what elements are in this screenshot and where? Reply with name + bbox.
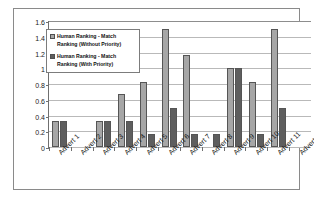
y-axis-tick-label: 1.6 xyxy=(35,19,45,26)
x-axis-label-cell: Advert 6 xyxy=(158,149,180,195)
x-axis-label-cell: Advert 9 xyxy=(223,149,245,195)
legend-entry: Human Ranking - Match Ranking (With Prio… xyxy=(50,53,136,68)
bar-group xyxy=(202,21,224,147)
chart-legend: Human Ranking - Match Ranking (Without P… xyxy=(46,29,140,73)
chart-x-axis-labels: Advert 1Advert 2Advert 3Advert 4Advert 5… xyxy=(48,149,311,195)
x-axis-label-cell: Advert 2 xyxy=(70,149,92,195)
legend-swatch-icon xyxy=(50,54,55,59)
legend-label: Human Ranking - Match Ranking (With Prio… xyxy=(57,53,136,68)
y-axis-tick-label: 0.2 xyxy=(35,129,45,136)
y-axis-tick-label: 1.2 xyxy=(35,50,45,57)
x-axis-label-cell: Advert 10 xyxy=(245,149,267,195)
legend-swatch-icon xyxy=(50,34,55,39)
bar-group xyxy=(224,21,246,147)
x-axis-label-cell: Advert 1 xyxy=(48,149,70,195)
y-axis-tick-label: 0.8 xyxy=(35,82,45,89)
legend-label: Human Ranking - Match Ranking (Without P… xyxy=(57,33,136,48)
x-axis-label-cell: Advert 8 xyxy=(201,149,223,195)
x-axis-label-cell: Advert 3 xyxy=(92,149,114,195)
bar xyxy=(162,29,169,147)
x-axis-label-cell: Advert 11 xyxy=(267,149,289,195)
bar-group xyxy=(289,21,311,147)
x-axis-label-cell: Advert 5 xyxy=(136,149,158,195)
y-axis-tick-label: 1.4 xyxy=(35,34,45,41)
y-axis-tick-label: 0 xyxy=(41,145,45,152)
bar-group xyxy=(158,21,180,147)
bar xyxy=(235,68,242,147)
bar-group xyxy=(245,21,267,147)
bar-group xyxy=(180,21,202,147)
x-axis-label-cell: Advert 7 xyxy=(180,149,202,195)
chart-figure-frame: 00.20.40.60.811.21.41.6 Advert 1Advert 2… xyxy=(13,8,300,190)
y-axis-tick-label: 1 xyxy=(41,66,45,73)
y-axis-tick-label: 0.6 xyxy=(35,97,45,104)
x-axis-label-cell: Advert 12 xyxy=(289,149,311,195)
x-axis-label-cell: Advert 4 xyxy=(114,149,136,195)
bar xyxy=(52,121,59,147)
y-axis-tick-label: 0.4 xyxy=(35,113,45,120)
bar-group xyxy=(267,21,289,147)
legend-entry: Human Ranking - Match Ranking (Without P… xyxy=(50,33,136,48)
